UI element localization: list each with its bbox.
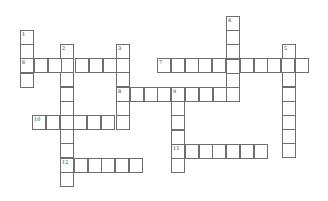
crossword-cell[interactable] — [185, 87, 199, 102]
crossword-cell[interactable] — [254, 58, 268, 73]
crossword-cell[interactable] — [20, 44, 34, 59]
crossword-cell[interactable] — [60, 72, 74, 87]
crossword-cell[interactable]: 9 — [171, 87, 185, 102]
crossword-cell[interactable] — [171, 115, 185, 130]
crossword-cell[interactable] — [226, 73, 240, 88]
crossword-cell[interactable] — [115, 158, 129, 173]
crossword-cell[interactable] — [116, 101, 130, 116]
crossword-cell[interactable] — [46, 115, 60, 130]
crossword-cell[interactable] — [282, 129, 296, 144]
crossword-cell[interactable] — [60, 172, 74, 187]
crossword-cell[interactable] — [199, 144, 213, 159]
crossword-cell[interactable] — [60, 101, 74, 116]
clue-number: 8 — [118, 88, 121, 94]
clue-number: 2 — [62, 45, 65, 51]
crossword-cell[interactable] — [171, 130, 185, 145]
clue-number: 9 — [173, 88, 176, 94]
clue-number: 3 — [118, 45, 121, 51]
crossword-cell[interactable] — [240, 144, 254, 159]
clue-number: 6 — [22, 59, 25, 65]
crossword-cell[interactable] — [199, 87, 213, 102]
crossword-cell[interactable] — [60, 143, 74, 158]
crossword-cell[interactable] — [171, 101, 185, 116]
crossword-cell[interactable] — [103, 58, 117, 73]
crossword-cell[interactable] — [282, 143, 296, 158]
crossword-cell[interactable] — [254, 144, 268, 159]
crossword-cell[interactable]: 11 — [171, 144, 185, 159]
crossword-cell[interactable] — [60, 58, 74, 73]
crossword-cell[interactable] — [116, 72, 130, 87]
clue-number: 5 — [284, 45, 287, 51]
crossword-cell[interactable] — [226, 87, 240, 102]
crossword-cell[interactable] — [240, 58, 254, 73]
crossword-cell[interactable]: 10 — [32, 115, 46, 130]
crossword-cell[interactable] — [34, 58, 48, 73]
crossword-cell[interactable] — [20, 73, 34, 88]
crossword-cell[interactable]: 2 — [60, 44, 74, 59]
crossword-cell[interactable] — [101, 158, 115, 173]
crossword-cell[interactable] — [267, 58, 281, 73]
crossword-cell[interactable]: 12 — [60, 158, 74, 173]
crossword-cell[interactable]: 6 — [20, 58, 34, 73]
crossword-cell[interactable] — [48, 58, 62, 73]
crossword-cell[interactable]: 3 — [116, 44, 130, 59]
crossword-cell[interactable] — [144, 87, 158, 102]
clue-number: 11 — [173, 145, 179, 151]
crossword-cell[interactable] — [226, 30, 240, 45]
crossword-cell[interactable] — [60, 129, 74, 144]
clue-number: 12 — [62, 159, 68, 165]
crossword-cell[interactable] — [87, 115, 101, 130]
crossword-cell[interactable] — [198, 58, 212, 73]
crossword-cell[interactable] — [185, 144, 199, 159]
crossword-cell[interactable] — [157, 87, 171, 102]
crossword-cell[interactable] — [130, 87, 144, 102]
crossword-cell[interactable] — [213, 87, 227, 102]
crossword-cell[interactable]: 1 — [20, 30, 34, 45]
crossword-cell[interactable] — [282, 101, 296, 116]
crossword-cell[interactable] — [89, 58, 103, 73]
crossword-cell[interactable] — [281, 58, 295, 73]
crossword-cell[interactable] — [212, 58, 226, 73]
crossword-cell[interactable] — [226, 44, 240, 59]
clue-number: 10 — [34, 116, 40, 122]
crossword-cell[interactable]: 7 — [157, 58, 171, 73]
crossword-cell[interactable] — [212, 144, 226, 159]
crossword-cell[interactable] — [88, 158, 102, 173]
crossword-cell[interactable] — [75, 58, 89, 73]
crossword-cell[interactable]: 4 — [226, 16, 240, 31]
clue-number: 1 — [22, 31, 25, 37]
crossword-cell[interactable] — [116, 115, 130, 130]
crossword-cell[interactable] — [101, 115, 115, 130]
crossword-cell[interactable] — [282, 72, 296, 87]
crossword-cell[interactable] — [171, 58, 185, 73]
crossword-cell[interactable] — [282, 87, 296, 102]
crossword-cell[interactable] — [226, 59, 240, 74]
crossword-cell[interactable] — [129, 158, 143, 173]
crossword-cell[interactable] — [171, 158, 185, 173]
crossword-cell[interactable] — [60, 87, 74, 102]
clue-number: 4 — [228, 17, 231, 23]
crossword-cell[interactable]: 8 — [116, 87, 130, 102]
crossword-cell[interactable] — [282, 115, 296, 130]
clue-number: 7 — [159, 59, 162, 65]
crossword-cell[interactable] — [185, 58, 199, 73]
crossword-cell[interactable] — [73, 115, 87, 130]
crossword-cell[interactable] — [116, 58, 130, 73]
crossword-cell[interactable] — [60, 115, 74, 130]
crossword-cell[interactable] — [295, 58, 309, 73]
crossword-cell[interactable] — [226, 144, 240, 159]
crossword-cell[interactable] — [74, 158, 88, 173]
crossword-grid: 162123845791110 — [0, 0, 328, 201]
crossword-cell[interactable]: 5 — [282, 44, 296, 59]
